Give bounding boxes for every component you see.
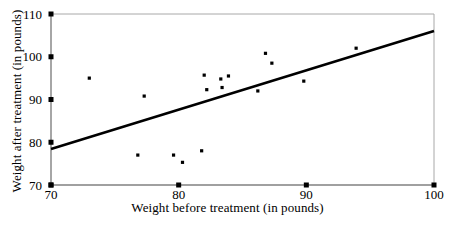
y-tick-label: 80 [29, 135, 42, 150]
y-tick-mark [49, 140, 54, 145]
y-tick-mark [49, 54, 54, 59]
regression-line [51, 31, 434, 149]
y-tick-label: 90 [29, 92, 42, 107]
data-point-marker [200, 149, 203, 152]
y-axis-label: Weight after treatment (in pounds) [9, 6, 25, 196]
trend-line-segment [51, 31, 434, 149]
data-point-marker [136, 153, 139, 156]
data-point-marker [302, 80, 305, 83]
y-axis-ticks: 708090100110 [23, 7, 54, 193]
data-point-marker [181, 161, 184, 164]
data-point-marker [172, 153, 175, 156]
scatter-plot-figure: 708090100110 708090100 Weight before tre… [0, 0, 455, 225]
y-tick-mark [49, 12, 54, 17]
axes-group [51, 14, 434, 185]
plot-canvas: 708090100110 708090100 [0, 0, 455, 225]
y-tick-label: 70 [29, 178, 42, 193]
data-point-marker [203, 74, 206, 77]
data-point-marker [256, 89, 259, 92]
data-point-marker [355, 47, 358, 50]
data-point-marker [219, 77, 222, 80]
data-point-marker [88, 77, 91, 80]
data-point-marker [143, 94, 146, 97]
data-point-marker [205, 88, 208, 91]
y-tick-mark [49, 97, 54, 102]
y-tick-label: 100 [23, 49, 43, 64]
data-point-marker [270, 62, 273, 65]
y-tick-label: 110 [23, 7, 42, 22]
x-axis-label: Weight before treatment (in pounds) [0, 200, 455, 216]
data-point-marker [220, 86, 223, 89]
data-point-marker [227, 74, 230, 77]
data-points-group [88, 47, 358, 164]
data-point-marker [264, 52, 267, 55]
